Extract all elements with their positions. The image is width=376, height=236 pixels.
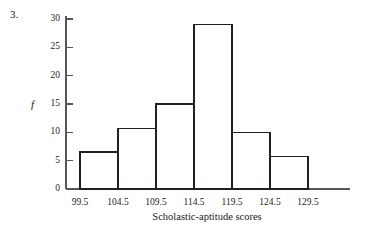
x-tick-label: 109.5: [136, 197, 176, 207]
y-tick-label: 25: [40, 41, 60, 51]
x-tick-label: 114.5: [174, 197, 214, 207]
y-tick-label: 15: [40, 98, 60, 108]
x-tick-label: 104.5: [98, 197, 138, 207]
histogram-bar: [156, 104, 194, 189]
y-tick-label: 30: [40, 13, 60, 23]
bars: [80, 25, 308, 189]
x-tick-label: 129.5: [288, 197, 328, 207]
y-tick-label: 20: [40, 70, 60, 80]
histogram-bar: [194, 25, 232, 189]
x-tick-label: 119.5: [212, 197, 252, 207]
x-axis-title: Scholastic-aptitude scores: [152, 211, 261, 222]
y-tick-label: 0: [40, 183, 60, 193]
histogram-bar: [118, 128, 156, 189]
histogram-bar: [232, 132, 270, 189]
y-tick-label: 5: [40, 155, 60, 165]
histogram-bar: [80, 152, 118, 189]
histogram-figure: 3. f 051015202530 99.5104.5109.5114.5119…: [0, 0, 376, 236]
x-tick-label: 124.5: [250, 197, 290, 207]
histogram-bar: [270, 157, 308, 189]
x-tick-label: 99.5: [60, 197, 100, 207]
x-axis-title-wrap: Scholastic-aptitude scores: [0, 211, 376, 222]
y-tick-label: 10: [40, 126, 60, 136]
